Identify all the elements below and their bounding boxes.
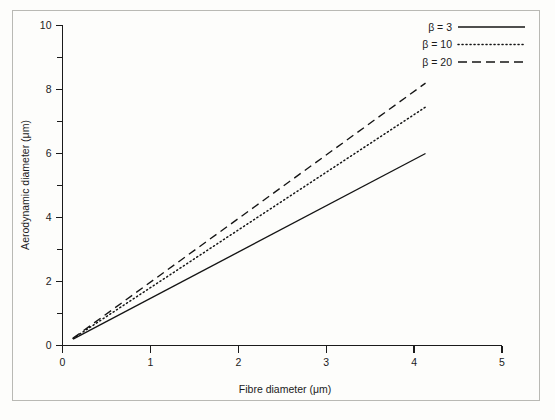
y-tick-label: 4 — [46, 211, 52, 223]
x-tick-label: 2 — [235, 356, 241, 368]
chart-canvas: 0246810 012345 β = 3β = 10β = 20 Fibre d… — [0, 0, 555, 420]
x-tick-label: 5 — [499, 356, 505, 368]
x-tick-label: 1 — [147, 356, 153, 368]
chart-legend: β = 3β = 10β = 20 — [422, 21, 525, 68]
figure-container: 0246810 012345 β = 3β = 10β = 20 Fibre d… — [0, 0, 555, 420]
legend-label-2: β = 10 — [422, 38, 452, 50]
y-tick-label: 8 — [46, 83, 52, 95]
y-tick-label: 10 — [40, 19, 52, 31]
x-tick-label: 4 — [411, 356, 417, 368]
y-tick-label: 0 — [46, 339, 52, 351]
series-line-1 — [73, 154, 425, 340]
y-axis-title: Aerodynamic diameter (μm) — [19, 120, 31, 250]
legend-label-3: β = 20 — [422, 56, 452, 68]
y-tick-label: 2 — [46, 275, 52, 287]
y-tick-label: 6 — [46, 147, 52, 159]
legend-label-1: β = 3 — [428, 21, 452, 33]
series-line-2 — [73, 107, 425, 338]
data-series-group — [73, 83, 425, 339]
x-axis-title: Fibre diameter (μm) — [239, 383, 331, 395]
series-line-3 — [73, 83, 425, 338]
x-tick-label: 3 — [323, 356, 329, 368]
x-axis: 012345 — [60, 346, 506, 368]
x-tick-label: 0 — [60, 356, 66, 368]
y-axis: 0246810 — [40, 19, 63, 351]
